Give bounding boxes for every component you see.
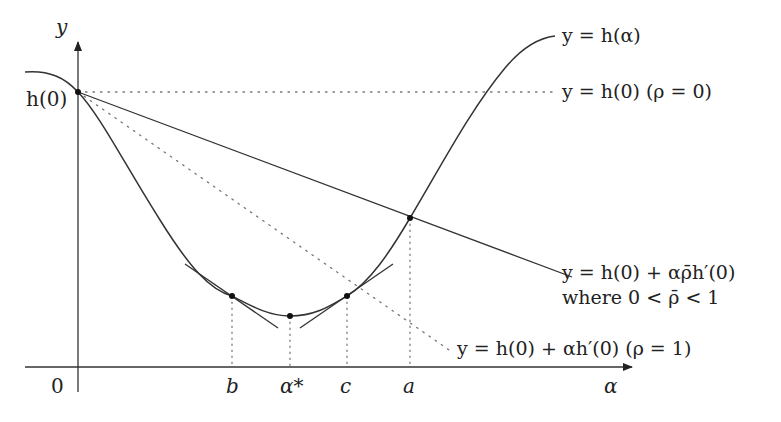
point-a [407,215,413,221]
label-relaxed-line-note: where 0 < ρ̄ < 1 [562,286,719,308]
y-axis-label: y [55,15,68,39]
point-alpha-star [287,313,293,319]
point-b [229,293,235,299]
h0-tick-label: h(0) [26,87,67,111]
label-tangent-line: y = h(0) + αh′(0) (ρ = 1) [456,337,691,359]
label-horizontal-line: y = h(0) (ρ = 0) [561,80,712,102]
point-c [344,293,350,299]
relaxed-line [78,92,572,277]
tangent-line-rho-1 [78,92,452,352]
origin-label: 0 [51,374,64,398]
x-axis-label: α [604,374,618,398]
point-h0 [75,89,81,95]
x-tick-b: b [226,374,239,398]
h-curve [25,36,555,316]
line-search-diagram: y α 0 h(0) b α* c a y = h(α) y = h(0) (ρ… [0,0,781,422]
label-relaxed-line: y = h(0) + αρ̄h′(0) [561,261,735,283]
x-tick-alpha-star: α* [280,374,304,398]
x-tick-c: c [340,374,351,398]
label-h-curve: y = h(α) [561,24,641,46]
x-tick-a: a [403,374,415,398]
